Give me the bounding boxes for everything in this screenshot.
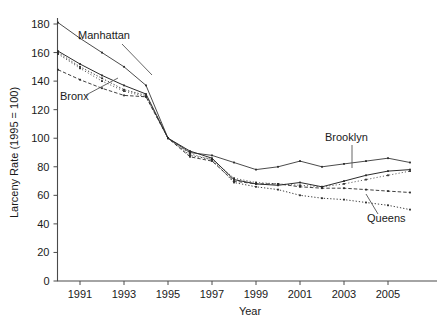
data-point [57,22,59,24]
data-point [101,80,103,82]
data-point [277,166,279,168]
data-point [233,177,235,179]
data-point [409,162,411,164]
leader-line-manhattan [122,44,152,75]
data-point [189,153,191,155]
x-axis-title: Year [239,305,262,317]
data-point [79,67,81,69]
y-tick-label: 120 [31,104,49,116]
data-point [255,182,257,184]
series-label-brooklyn: Brooklyn [325,131,368,143]
y-tick-label: 40 [37,218,49,230]
data-point [145,96,147,98]
data-point [365,179,367,181]
data-point [277,189,279,191]
x-tick-label: 2003 [332,288,356,300]
data-point [277,183,279,185]
y-tick-label: 0 [43,275,49,287]
data-point [123,66,125,68]
x-tick-label: 2005 [376,288,400,300]
data-point [145,85,147,87]
data-point [365,202,367,204]
data-point [343,183,345,185]
data-point [343,187,345,189]
data-point [57,53,59,55]
data-point [387,170,389,172]
data-point [365,174,367,176]
data-point [343,199,345,201]
leader-line-queens [366,194,378,214]
data-point [321,166,323,168]
data-point [101,52,103,54]
data-point [387,204,389,206]
data-point [365,160,367,162]
x-tick-label: 1991 [68,288,92,300]
data-point [233,162,235,164]
data-point [101,75,103,77]
data-point [255,169,257,171]
data-point [409,170,411,172]
series-label-queens: Queens [367,212,406,224]
series-label-bronx: Bronx [60,90,89,102]
data-point [343,163,345,165]
data-point [321,197,323,199]
series-line [58,54,410,187]
y-tick-label: 60 [37,189,49,201]
x-tick-label: 1993 [112,288,136,300]
data-point [101,87,103,89]
x-tick-label: 1995 [156,288,180,300]
data-point [123,85,125,87]
data-point [299,160,301,162]
series-brooklyn [57,50,411,188]
series-group [57,22,411,211]
data-point [299,194,301,196]
series-manhattan [57,22,411,171]
data-point [409,209,411,211]
data-point [123,90,125,92]
data-point [211,159,213,161]
data-point [101,77,103,79]
x-tick-label: 2001 [288,288,312,300]
y-tick-label: 160 [31,47,49,59]
data-point [409,192,411,194]
y-tick-label: 180 [31,18,49,30]
data-point [255,186,257,188]
chart-canvas: 0204060801001201401601801991199319951997… [0,0,438,323]
data-point [387,174,389,176]
data-point [321,186,323,188]
data-point [299,184,301,186]
y-tick-label: 100 [31,132,49,144]
series-line [58,51,410,187]
data-point [365,189,367,191]
y-tick-label: 140 [31,75,49,87]
y-axis-title: Larceny Rate (1995 = 100) [8,87,20,218]
data-point [387,190,389,192]
axis-lines [58,18,438,281]
data-point [211,155,213,157]
annotation-group: ManhattanBronxBrooklynQueens [60,29,406,224]
data-point [387,157,389,159]
series-staten-island [57,53,411,188]
y-tick-label: 20 [37,246,49,258]
series-label-manhattan: Manhattan [78,29,130,41]
data-point [343,180,345,182]
data-point [79,63,81,65]
data-point [123,95,125,97]
series-line [58,23,410,170]
data-point [299,182,301,184]
larceny-rate-line-chart: 0204060801001201401601801991199319951997… [0,0,438,323]
data-point [167,137,169,139]
data-point [57,69,59,71]
y-tick-label: 80 [37,161,49,173]
x-tick-label: 1997 [200,288,224,300]
data-point [233,182,235,184]
data-point [79,79,81,81]
x-tick-label: 1999 [244,288,268,300]
data-point [189,150,191,152]
